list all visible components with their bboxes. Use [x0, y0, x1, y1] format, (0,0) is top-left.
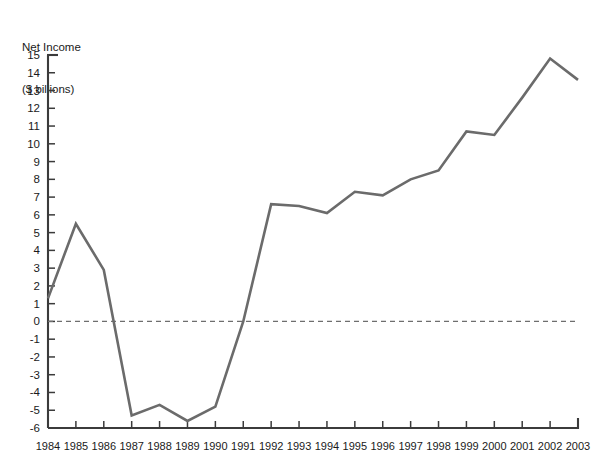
- x-axis-tick-label: 1988: [147, 440, 171, 452]
- x-axis-tick-label: 2002: [538, 440, 562, 452]
- y-axis-tick-label: -5: [30, 404, 40, 416]
- x-axis-tick-label: 1989: [175, 440, 199, 452]
- y-axis-tick-label: 2: [34, 280, 40, 292]
- x-axis-tick-label: 1996: [370, 440, 394, 452]
- x-axis-tick-label: 1985: [64, 440, 88, 452]
- x-axis-tick-labels: 1984198519861987198819891990199119921993…: [36, 440, 590, 452]
- x-axis-tick-label: 1990: [203, 440, 227, 452]
- net-income-series-line: [48, 59, 578, 421]
- y-axis-tick-label: 7: [34, 191, 40, 203]
- y-axis-tick-label: -1: [30, 333, 40, 345]
- x-axis-tick-label: 1986: [92, 440, 116, 452]
- y-axis-tick-label: 13: [27, 85, 40, 97]
- y-axis-tick-label: 14: [27, 67, 40, 79]
- y-axis-tick-label: -2: [30, 351, 40, 363]
- y-axis-tick-label: 3: [34, 262, 40, 274]
- x-axis-tick-label: 1993: [287, 440, 311, 452]
- y-axis-tick-label: 15: [27, 49, 40, 61]
- y-axis-tick-label: 0: [34, 315, 40, 327]
- x-axis-tick-label: 1997: [398, 440, 422, 452]
- x-axis-tick-label: 1995: [343, 440, 367, 452]
- y-axis-tick-label: 4: [34, 244, 41, 256]
- x-axis-tick-label: 1992: [259, 440, 283, 452]
- x-axis-tick-label: 1994: [315, 440, 339, 452]
- x-axis-tick-label: 2001: [510, 440, 534, 452]
- page-bottom-margin: [0, 456, 597, 461]
- chart-page: Net Income ($ billions) 1514131211109876…: [0, 0, 597, 461]
- x-axis-tick-label: 1984: [36, 440, 60, 452]
- x-axis-tick-label: 1998: [426, 440, 450, 452]
- y-axis-tick-label: 8: [34, 173, 40, 185]
- x-axis-tick-label: 2003: [566, 440, 590, 452]
- x-axis-tick-label: 1991: [231, 440, 255, 452]
- line-chart-plot: 1514131211109876543210-1-2-3-4-5-6 19841…: [0, 0, 597, 461]
- y-axis-tick-label: 10: [27, 138, 40, 150]
- y-axis-tick-label: 6: [34, 209, 40, 221]
- y-axis-tick-label: -6: [30, 422, 40, 434]
- x-axis-tick-label: 1987: [119, 440, 143, 452]
- y-axis-tick-labels: 1514131211109876543210-1-2-3-4-5-6: [27, 49, 40, 434]
- y-axis-tick-label: -4: [30, 386, 41, 398]
- x-axis-tick-label: 1999: [454, 440, 478, 452]
- y-axis-tick-label: 9: [34, 156, 40, 168]
- y-axis-tick-label: -3: [30, 369, 40, 381]
- y-axis-tick-label: 1: [34, 298, 40, 310]
- x-axis-tick-label: 2000: [482, 440, 506, 452]
- y-axis-tick-label: 11: [28, 120, 40, 132]
- y-axis-tick-label: 12: [27, 102, 40, 114]
- y-axis-tick-label: 5: [34, 227, 40, 239]
